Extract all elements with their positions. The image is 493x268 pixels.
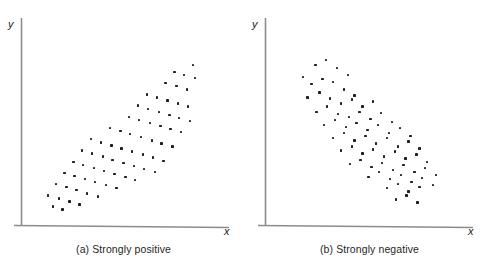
panel-strongly-positive: y x (a) Strongly positive <box>0 0 247 268</box>
scatter-point <box>103 170 105 172</box>
scatter-point <box>397 145 399 147</box>
plot-area-b: y x <box>246 0 493 240</box>
scatter-point <box>122 162 124 164</box>
scatter-point <box>72 161 74 163</box>
scatter-point <box>404 157 406 159</box>
scatter-point <box>171 145 173 147</box>
scatter-point <box>413 171 415 173</box>
scatter-point <box>142 153 144 155</box>
scatter-point <box>97 195 99 197</box>
scatter-point <box>337 113 339 115</box>
figure-scatterplot-correlation-pair: y x (a) Strongly positive y x (b) Strong… <box>0 0 493 268</box>
scatter-point <box>160 142 162 144</box>
scatter-point <box>187 105 189 107</box>
scatter-point <box>353 139 355 141</box>
scatter-point <box>355 122 357 124</box>
x-axis-label-a: x <box>224 226 230 237</box>
scatter-point <box>52 205 54 207</box>
scatter-point <box>302 76 304 78</box>
scatter-point <box>351 98 353 100</box>
scatter-point <box>147 108 149 110</box>
y-axis-label-a: y <box>8 19 14 30</box>
scatter-point <box>120 147 122 149</box>
scatter-point <box>169 128 171 130</box>
scatter-point <box>58 197 60 199</box>
scatter-point <box>353 94 355 96</box>
x-axis-label-b: x <box>468 226 474 237</box>
scatter-point <box>91 152 93 154</box>
scatter-point <box>402 164 404 166</box>
x-axis-line-a <box>14 226 229 228</box>
scatter-point <box>407 190 409 192</box>
scatter-point <box>381 162 383 164</box>
scatter-point <box>119 130 121 132</box>
caption-a: (a) Strongly positive <box>0 243 247 255</box>
caption-b: (b) Strongly negative <box>246 243 493 255</box>
scatter-point <box>407 140 409 142</box>
scatter-point <box>367 176 369 178</box>
scatter-point <box>149 122 151 124</box>
scatter-point <box>394 150 396 152</box>
scatter-point <box>146 93 148 95</box>
y-axis-label-b: y <box>252 19 258 30</box>
axes-a <box>0 0 247 240</box>
scatter-point <box>306 96 308 98</box>
scatter-point <box>152 156 154 158</box>
scatter-point <box>137 104 139 106</box>
scatter-point <box>361 105 363 107</box>
scatter-point <box>159 125 161 127</box>
scatter-point <box>340 102 342 104</box>
scatter-point <box>359 159 361 161</box>
x-axis-line-b <box>258 226 473 228</box>
scatter-point <box>189 120 191 122</box>
panel-strongly-negative: y x (b) Strongly negative <box>246 0 493 268</box>
scatter-point <box>348 116 350 118</box>
scatter-point <box>93 167 95 169</box>
scatter-point <box>351 145 353 147</box>
scatter-point <box>78 203 80 205</box>
scatter-point <box>314 64 316 66</box>
scatter-point <box>63 172 65 174</box>
scatter-point <box>100 141 102 143</box>
scatter-point <box>124 176 126 178</box>
scatter-point <box>168 114 170 116</box>
scatter-point <box>156 96 158 98</box>
scatter-point <box>110 144 112 146</box>
scatter-point <box>158 111 160 113</box>
scatter-point <box>166 99 168 101</box>
scatter-point <box>186 88 188 90</box>
scatter-point <box>321 78 323 80</box>
scatter-point <box>73 175 75 177</box>
plot-area-a: y x <box>0 0 247 240</box>
scatter-point <box>113 173 115 175</box>
scatter-point <box>318 91 320 93</box>
scatter-point <box>329 97 331 99</box>
scatter-point <box>405 194 407 196</box>
scatter-point <box>399 127 401 129</box>
scatter-point <box>109 127 111 129</box>
scatter-point <box>392 169 394 171</box>
scatter-point <box>102 155 104 157</box>
scatter-point <box>61 208 63 210</box>
scatter-point <box>361 152 363 154</box>
scatter-point <box>383 155 385 157</box>
scatter-point <box>347 74 349 76</box>
scatter-point <box>410 181 412 183</box>
scatter-point <box>111 159 113 161</box>
scatter-point <box>418 147 420 149</box>
scatter-point <box>315 111 317 113</box>
scatter-point <box>68 200 70 202</box>
scatter-point <box>358 111 360 113</box>
scatter-point <box>340 149 342 151</box>
scatter-point <box>395 198 397 200</box>
scatter-point <box>391 121 393 123</box>
scatter-point <box>162 160 164 162</box>
scatter-point <box>415 153 417 155</box>
scatter-point <box>416 201 418 203</box>
scatter-point <box>336 67 338 69</box>
scatter-point <box>173 71 175 73</box>
scatter-point <box>138 119 140 121</box>
